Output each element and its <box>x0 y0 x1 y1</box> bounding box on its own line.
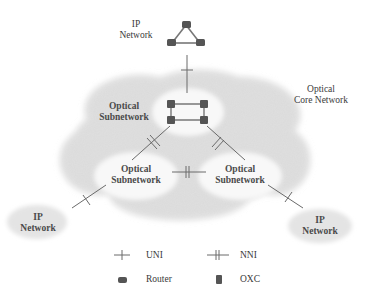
label-line: IP <box>116 19 156 30</box>
router-legend-icon <box>118 277 127 283</box>
label-line: Optical <box>286 84 356 95</box>
oxc-legend-icon <box>216 275 222 284</box>
label-line: Optical <box>212 164 268 175</box>
label-line: IP <box>20 212 56 223</box>
ip-left-label: IP Network <box>20 212 56 234</box>
label-line: Network <box>20 223 56 234</box>
subnet-top-oval <box>152 88 224 136</box>
core-network-label: Optical Core Network <box>286 84 356 106</box>
router-icon <box>196 39 205 46</box>
label-line: Network <box>116 30 156 41</box>
legend-symbols <box>114 250 229 260</box>
subnet-right-label: Optical Subnetwork <box>212 164 268 186</box>
diagram-canvas: IP Network Optical Core Network Optical … <box>0 0 368 301</box>
router-icon <box>182 21 191 28</box>
label-line: Optical <box>96 101 152 112</box>
legend-nni-label: NNI <box>240 250 257 261</box>
label-line: Network <box>300 226 340 237</box>
oxc-icon <box>200 100 208 108</box>
legend-router-label: Router <box>146 274 172 285</box>
ip-right-label: IP Network <box>300 215 340 237</box>
label-line: Subnetwork <box>108 175 164 186</box>
label-line: Subnetwork <box>212 175 268 186</box>
label-line: Optical <box>108 164 164 175</box>
oxc-icon <box>167 100 175 108</box>
oxc-icon <box>167 116 175 124</box>
ip-top-router-triangle <box>167 21 205 46</box>
ip-top-label: IP Network <box>116 19 156 41</box>
diagram-graphics <box>0 0 368 301</box>
subnet-left-label: Optical Subnetwork <box>108 164 164 186</box>
label-line: Core Network <box>286 95 356 106</box>
legend-oxc-label: OXC <box>240 274 260 285</box>
legend-uni-label: UNI <box>146 250 163 261</box>
label-line: Subnetwork <box>96 112 152 123</box>
subnet-top-label: Optical Subnetwork <box>96 101 152 123</box>
oxc-icon <box>200 116 208 124</box>
router-icon <box>167 39 176 46</box>
label-line: IP <box>300 215 340 226</box>
